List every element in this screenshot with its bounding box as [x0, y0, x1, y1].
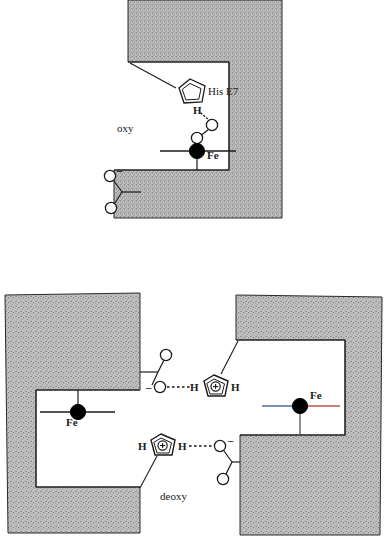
deoxy-upper-carboxylate-charge-label: –	[145, 381, 152, 393]
deoxy-upper-imidazolium-ring	[204, 375, 228, 396]
oxy-o-proximal-atom	[191, 132, 202, 143]
deoxy-upper-donor-hydrogen-label: H	[190, 381, 199, 393]
oxy-iron-label: Fe	[207, 149, 219, 161]
deoxy-lower-carboxylate-charge-label: –	[227, 434, 234, 446]
deoxy-upper-his-anchor-bond	[221, 341, 238, 374]
deoxy-right-iron-atom	[292, 398, 307, 413]
oxy-panel: His E7 H Fe oxy –	[104, 0, 282, 218]
deoxy-lower-terminal-hydrogen-label: H	[138, 440, 147, 452]
deoxy-right-iron-label: Fe	[310, 389, 322, 401]
hemoglobin-oxy-deoxy-diagram: His E7 H Fe oxy –	[0, 0, 388, 536]
deoxy-upper-carbonyl-o-atom	[160, 349, 171, 360]
oxy-his-anchor-bond	[130, 63, 176, 88]
oxy-iron-atom	[189, 143, 204, 158]
deoxy-lower-salt-bridge: H H –	[138, 434, 240, 488]
deoxy-lower-imidazolium-ring	[151, 434, 175, 455]
deoxy-lower-carbonyl-o-atom	[217, 473, 228, 484]
deoxy-right-cavity-outline	[236, 340, 345, 435]
oxy-o-distal-atom	[206, 119, 217, 130]
oxy-carboxylate-o2-atom	[105, 202, 116, 213]
deoxy-left-iron-label: Fe	[66, 416, 78, 428]
oxy-carboxylate-charge-label: –	[116, 164, 123, 176]
deoxy-lower-donor-hydrogen-label: H	[178, 440, 187, 452]
his-e7-label: His E7	[208, 85, 239, 97]
deoxy-right-protein-matrix	[236, 295, 382, 535]
deoxy-upper-carboxylate-o-atom	[154, 381, 165, 392]
deoxy-upper-salt-bridge: – H H	[140, 341, 240, 396]
deoxy-panel: Fe Fe – H H	[5, 293, 382, 535]
deoxy-lower-carboxylate-o-atom	[214, 440, 225, 451]
oxy-hbond-hydrogen-label: H	[193, 104, 202, 116]
oxy-state-label: oxy	[117, 122, 134, 134]
figure-canvas: His E7 H Fe oxy –	[0, 0, 388, 536]
deoxy-left-heme-group: Fe	[40, 390, 115, 428]
oxy-histidine-ring	[179, 79, 205, 103]
deoxy-left-cavity-outline	[36, 390, 140, 487]
deoxy-right-heme-group: Fe	[262, 389, 340, 435]
deoxy-lower-his-anchor-bond	[140, 456, 157, 488]
oxy-carboxylate-o1-atom	[104, 170, 115, 181]
deoxy-state-label: deoxy	[160, 490, 187, 502]
deoxy-upper-terminal-hydrogen-label: H	[231, 381, 240, 393]
